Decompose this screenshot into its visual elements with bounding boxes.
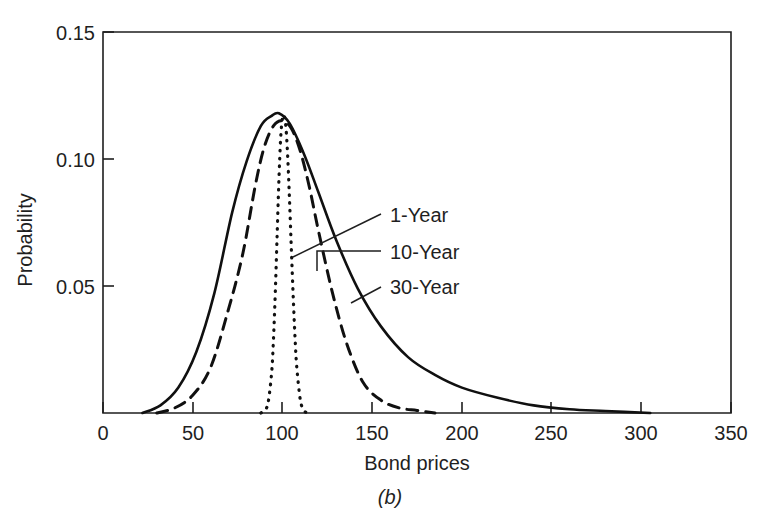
- y-axis-title: Probability: [14, 193, 36, 286]
- figure-caption: (b): [378, 486, 402, 508]
- x-tick-label-200: 200: [445, 422, 478, 444]
- x-tick-label-0: 0: [97, 422, 108, 444]
- x-axis-tick-labels: 0 50 100 150 200 250 300 350: [97, 422, 747, 444]
- x-tick-label-100: 100: [265, 422, 298, 444]
- curve-1-year: [261, 115, 308, 413]
- annotation-leader-lines: [293, 214, 381, 303]
- x-tick-label-350: 350: [714, 422, 747, 444]
- series-annotations: 1-Year 10-Year 30-Year: [390, 204, 460, 298]
- x-tick-label-250: 250: [534, 422, 567, 444]
- series-label-10-year: 10-Year: [390, 241, 460, 263]
- y-tick-label-005: 0.05: [56, 276, 95, 298]
- x-axis-title: Bond prices: [364, 452, 470, 474]
- bond-price-probability-chart: 0.15 0.10 0.05 0 50 100 150 200 250 300 …: [0, 0, 773, 526]
- leader-line-30-year: [351, 287, 381, 303]
- x-tick-label-300: 300: [624, 422, 657, 444]
- y-axis-ticks: [103, 32, 114, 286]
- figure-container: 0.15 0.10 0.05 0 50 100 150 200 250 300 …: [0, 0, 773, 526]
- x-tick-label-150: 150: [355, 422, 388, 444]
- y-tick-label-010: 0.10: [56, 149, 95, 171]
- series-label-1-year: 1-Year: [390, 204, 449, 226]
- y-axis-tick-labels: 0.15 0.10 0.05: [56, 22, 95, 298]
- series-label-30-year: 30-Year: [390, 276, 460, 298]
- y-tick-label-015: 0.15: [56, 22, 95, 44]
- x-tick-label-50: 50: [182, 422, 204, 444]
- curve-10-year: [157, 121, 435, 413]
